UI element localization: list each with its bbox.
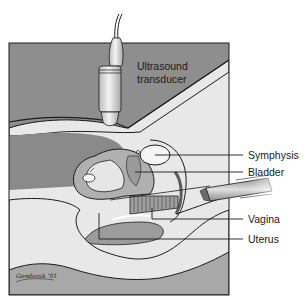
symphysis-label: Symphysis — [248, 149, 299, 161]
transducer-label-line2: transducer — [137, 73, 188, 86]
transducer-cable-2 — [118, 14, 122, 40]
transducer-label-line1: Ultrasound — [137, 60, 188, 73]
ultrasound-transducer — [99, 14, 123, 126]
transducer-neck — [109, 38, 123, 66]
uterus-label: Uterus — [248, 233, 279, 245]
vagina-label: Vagina — [248, 213, 280, 225]
transducer-label: Ultrasound transducer — [137, 60, 188, 86]
artist-signature: Gondorak '91 — [16, 272, 57, 279]
bladder-label: Bladder — [248, 166, 284, 178]
embryo — [83, 174, 95, 182]
